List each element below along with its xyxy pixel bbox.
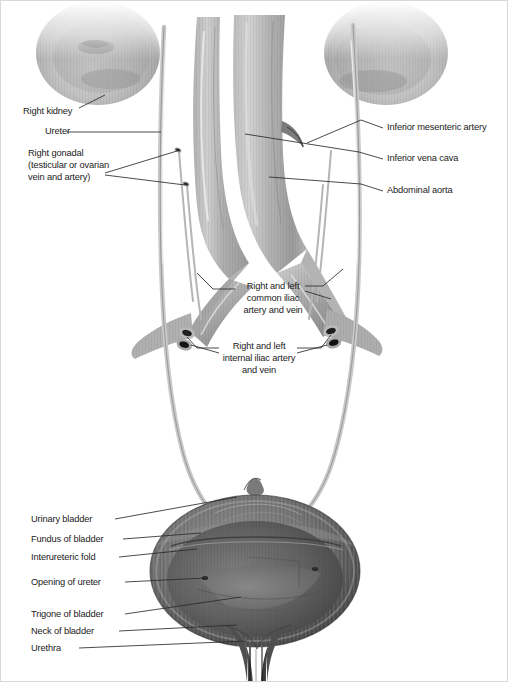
label-internal-iliac-line3: and vein (221, 365, 297, 377)
label-opening-of-ureter: Opening of ureter (31, 577, 101, 589)
label-common-iliac-line2: common iliac (237, 293, 309, 305)
label-internal-iliac-line1: Right and left (221, 341, 297, 353)
ureter-opening-left (312, 567, 318, 571)
label-abdominal-aorta: Abdominal aorta (387, 185, 452, 197)
label-right-gonadal-line1: Right gonadal (28, 148, 83, 160)
label-inferior-mesenteric-artery: Inferior mesenteric artery (387, 122, 486, 134)
label-right-gonadal-line2: (testicular or ovarian (28, 160, 109, 172)
label-right-kidney: Right kidney (23, 106, 72, 118)
anatomy-figure: Right kidney Ureter Right gonadal (testi… (1, 1, 507, 681)
figure-page: Right kidney Ureter Right gonadal (testi… (0, 0, 508, 682)
label-interureteric-fold: Interureteric fold (31, 552, 95, 564)
label-ureter: Ureter (45, 126, 70, 138)
label-urinary-bladder: Urinary bladder (31, 514, 92, 526)
label-inferior-vena-cava: Inferior vena cava (387, 153, 458, 165)
label-internal-iliac-line2: internal iliac artery (215, 353, 303, 365)
urinary-bladder-shape (150, 478, 360, 647)
label-trigone-of-bladder: Trigone of bladder (31, 609, 103, 621)
label-right-gonadal-line3: vein and artery) (28, 172, 90, 184)
bladder-apex (247, 478, 264, 496)
label-common-iliac-line1: Right and left (237, 281, 309, 293)
label-neck-of-bladder: Neck of bladder (31, 626, 94, 638)
label-common-iliac-line3: artery and vein (237, 305, 309, 317)
label-urethra: Urethra (31, 643, 61, 655)
label-fundus-of-bladder: Fundus of bladder (31, 534, 103, 546)
